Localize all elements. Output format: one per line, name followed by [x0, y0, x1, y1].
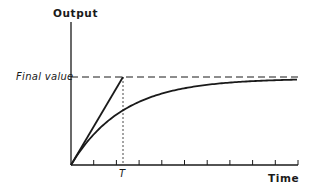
x-axis-label: Time: [268, 173, 299, 184]
plot-area: [71, 77, 298, 165]
final-value-label: Final value: [16, 72, 74, 82]
chart-canvas: [0, 0, 314, 189]
time-constant-label: T: [119, 169, 125, 179]
x-axis-ticks: [94, 160, 298, 165]
y-axis-label: Output: [53, 8, 98, 19]
step-response-curve: [71, 80, 297, 165]
axes: [71, 22, 298, 165]
